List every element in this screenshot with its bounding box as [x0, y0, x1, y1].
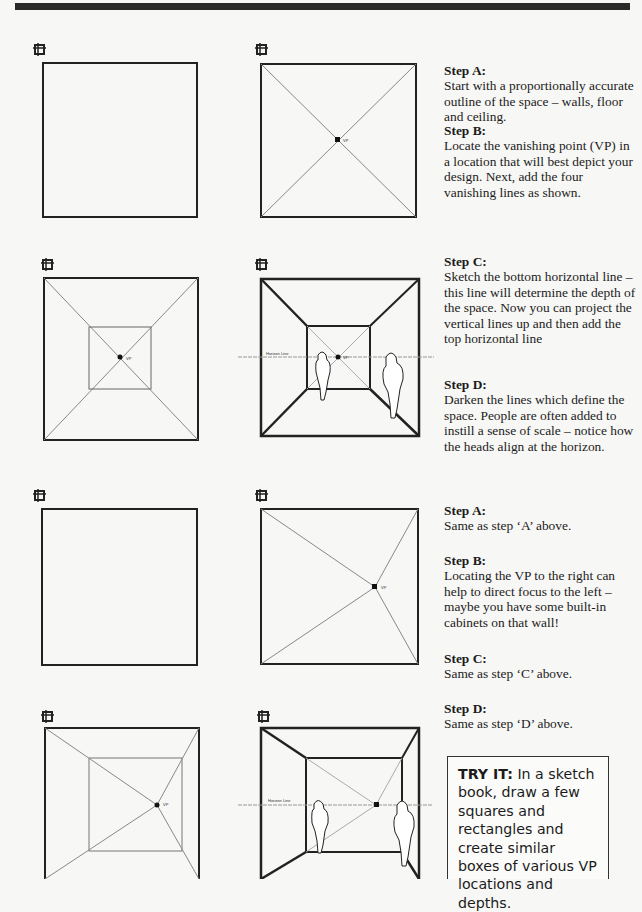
drawing-tag-icon	[41, 258, 54, 271]
drawing-tag-icon	[41, 710, 54, 723]
step-c-2: Step C: Same as step ‘C’ above.	[444, 651, 638, 682]
step-b-1: Step B: Locate the vanishing point (VP) …	[444, 123, 638, 200]
step-body: Same as step ‘D’ above.	[444, 716, 638, 731]
person-figure	[316, 352, 330, 400]
drawing-tag-icon	[255, 489, 268, 502]
sketch-step-c-1: VP	[41, 258, 198, 440]
sketch-step-b-2: VP	[255, 489, 418, 664]
drawing-tag-icon	[33, 489, 46, 502]
step-body: Darken the lines which define the space.…	[444, 392, 638, 454]
step-b-2: Step B: Locating the VP to the right can…	[444, 553, 638, 630]
svg-text:VP: VP	[381, 585, 387, 590]
step-a-2: Step A: Same as step ‘A’ above.	[444, 503, 638, 534]
step-title: Step A:	[444, 63, 638, 78]
step-title: Step D:	[444, 701, 638, 716]
step-title: Step C:	[444, 254, 638, 269]
sketch-step-a-1	[33, 43, 197, 217]
step-title: Step C:	[444, 651, 638, 666]
step-body: Sketch the bottom horizontal line – this…	[444, 269, 638, 346]
step-c-1: Step C: Sketch the bottom horizontal lin…	[444, 254, 638, 346]
step-title: Step B:	[444, 553, 638, 568]
step-title: Step D:	[444, 377, 638, 392]
step-title: Step B:	[444, 123, 638, 138]
person-figure	[312, 801, 328, 854]
step-d-2: Step D: Same as step ‘D’ above.	[444, 701, 638, 732]
svg-text:VP: VP	[126, 356, 132, 361]
step-body: Same as step ‘C’ above.	[444, 666, 638, 681]
sketch-step-c-2: VP	[41, 710, 199, 879]
step-a-1: Step A: Start with a proportionally accu…	[444, 63, 638, 125]
sketch-step-d-2: Horizon Line	[238, 710, 432, 879]
drawing-tag-icon	[255, 43, 268, 56]
step-body: Same as step ‘A’ above.	[444, 518, 638, 533]
try-it-body: In a sketch book, draw a few squares and…	[458, 766, 597, 911]
sketch-step-b-1: VP	[255, 43, 416, 217]
try-it-label: TRY IT:	[458, 766, 513, 782]
step-body: Locate the vanishing point (VP) in a loc…	[444, 138, 638, 200]
step-body: Start with a proportionally accurate out…	[444, 78, 638, 124]
svg-text:VP: VP	[343, 355, 349, 360]
drawing-tag-icon	[33, 43, 46, 56]
person-figure	[394, 801, 414, 866]
sketch-step-a-2	[33, 489, 197, 665]
svg-text:Horizon Line: Horizon Line	[266, 351, 289, 356]
step-title: Step A:	[444, 503, 638, 518]
drawing-tag-icon	[255, 258, 268, 271]
svg-text:VP: VP	[343, 138, 349, 143]
try-it-callout: TRY IT: In a sketch book, draw a few squ…	[447, 756, 609, 879]
step-d-1: Step D: Darken the lines which define th…	[444, 377, 638, 454]
person-figure	[383, 353, 403, 418]
svg-text:Horizon Line: Horizon Line	[268, 798, 291, 803]
sketch-step-d-1: Horizon Line VP	[238, 258, 434, 436]
svg-text:VP: VP	[163, 802, 169, 807]
drawing-tag-icon	[257, 710, 270, 723]
step-body: Locating the VP to the right can help to…	[444, 568, 638, 630]
